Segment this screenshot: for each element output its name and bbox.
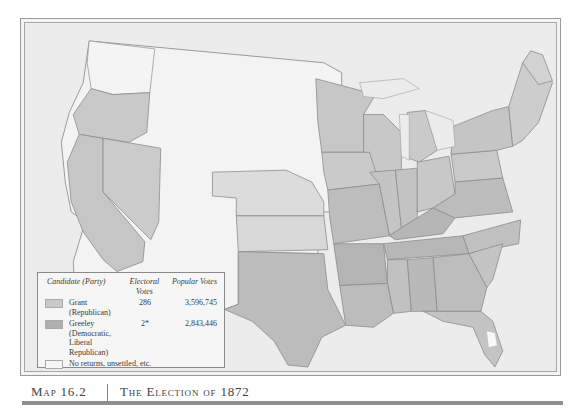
legend-candidate: No returns, unsettled, etc.: [69, 359, 151, 369]
map-panel: Candidate (Party) Electoral Votes Popula…: [24, 22, 557, 372]
legend-electoral: 2*: [122, 319, 168, 329]
legend-header: Candidate (Party) Electoral Votes Popula…: [45, 277, 217, 296]
alabama: [407, 258, 437, 312]
caption-rule: [22, 401, 563, 405]
legend-header-candidate: Candidate (Party): [45, 277, 122, 296]
legend-row-greeley: Greeley (Democratic, Liberal Republican)…: [45, 319, 217, 357]
pennsylvania: [451, 150, 503, 182]
map-frame: Candidate (Party) Electoral Votes Popula…: [20, 18, 561, 376]
grant-swatch: [45, 299, 63, 308]
figure-number: Map 16.2: [31, 384, 107, 400]
legend-row-grant: Grant (Republican) 286 3,596,745: [45, 298, 217, 317]
legend-candidate: Greeley (Democratic, Liberal Republican): [69, 319, 122, 357]
map-legend: Candidate (Party) Electoral Votes Popula…: [37, 272, 225, 368]
legend-popular: 3,596,745: [168, 298, 217, 308]
no-returns-swatch: [45, 360, 63, 369]
caption-divider: [107, 384, 108, 401]
iowa: [322, 152, 380, 190]
washington-territory: [87, 41, 155, 95]
map-caption: Map 16.2 The Election of 1872: [31, 384, 250, 400]
legend-row-no-returns: No returns, unsettled, etc.: [45, 359, 217, 369]
legend-header-electoral: Electoral Votes: [122, 277, 168, 296]
legend-candidate: Grant (Republican): [69, 298, 122, 317]
missouri: [328, 184, 390, 244]
legend-header-popular: Popular Votes: [167, 277, 217, 296]
kansas: [236, 216, 327, 252]
arkansas: [334, 244, 388, 286]
legend-electoral: 286: [122, 298, 168, 308]
figure-title: The Election of 1872: [120, 384, 250, 400]
greeley-swatch: [45, 320, 63, 329]
legend-popular: 2,843,446: [168, 319, 217, 329]
